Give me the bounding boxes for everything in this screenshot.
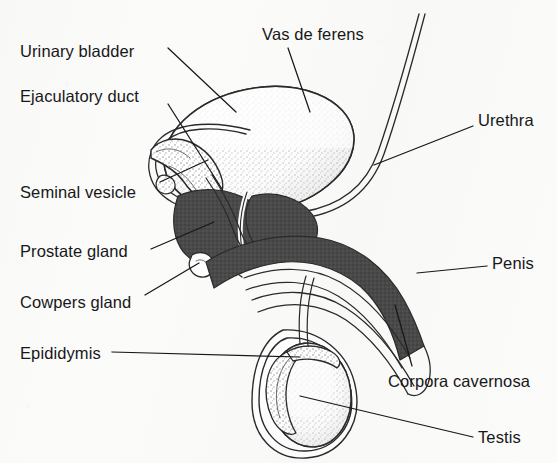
label-urinary-bladder: Urinary bladder — [20, 43, 134, 60]
label-corpora-cavernosa: Corpora cavernosa — [388, 373, 530, 390]
label-vas-de-ferens: Vas de ferens — [262, 26, 364, 43]
label-cowpers-gland: Cowpers gland — [20, 294, 131, 311]
leader-penis — [417, 266, 487, 273]
label-prostate-gland: Prostate gland — [20, 243, 128, 260]
anatomy-illustration — [0, 0, 557, 463]
leader-urethra — [374, 126, 473, 165]
diagram-page: Urinary bladder Ejaculatory duct Vas de … — [0, 0, 557, 463]
label-seminal-vesicle: Seminal vesicle — [20, 184, 136, 201]
leader-cowpers-gland — [145, 263, 199, 295]
leader-urinary-bladder — [168, 48, 236, 112]
label-ejaculatory-duct: Ejaculatory duct — [20, 88, 139, 105]
label-epididymis: Epididymis — [20, 345, 101, 362]
label-penis: Penis — [492, 255, 534, 272]
label-testis: Testis — [478, 429, 521, 446]
label-urethra: Urethra — [478, 112, 534, 129]
